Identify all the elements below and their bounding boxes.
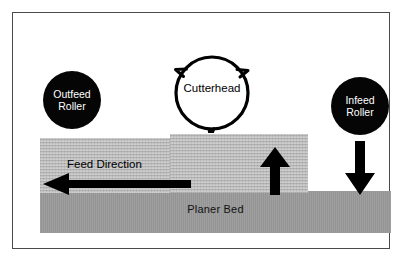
cutterhead-knife-bottom-icon — [209, 128, 215, 134]
infeed-roller-label-line1: Infeed — [345, 94, 374, 106]
feed-direction-label: Feed Direction — [67, 158, 142, 170]
planer-bed-label: Planer Bed — [40, 203, 391, 215]
outfeed-roller-label-line1: Outfeed — [53, 88, 90, 100]
outfeed-roller: Outfeed Roller — [43, 71, 101, 129]
infeed-pressure-down-arrow-icon — [345, 141, 375, 195]
outfeed-roller-label-line2: Roller — [58, 100, 85, 112]
diagram-canvas: Planer Bed Feed Direction Outfeed Roller… — [0, 0, 402, 261]
infeed-roller-label-line2: Roller — [346, 106, 373, 118]
cutterhead-label: Cutterhead — [163, 82, 261, 94]
cutterhead: Cutterhead — [172, 53, 252, 133]
planer-bed: Planer Bed — [40, 191, 391, 233]
infeed-roller: Infeed Roller — [331, 77, 389, 135]
feed-direction-arrow-icon — [43, 171, 191, 197]
cut-force-up-arrow-icon — [260, 147, 290, 195]
diagram-frame: Planer Bed Feed Direction Outfeed Roller… — [12, 12, 390, 249]
